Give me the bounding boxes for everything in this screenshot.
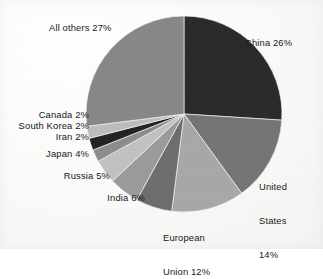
pie-label-japan: Japan 4% [46,148,89,159]
pie-label-russia: Russia 5% [64,170,110,181]
pie-label-iran: Iran 2% [56,131,89,142]
pie-label-united-states: United States 14% [259,158,287,279]
pie-label-south-korea: South Korea 2% [19,120,89,131]
pie-label-european-union-line2: Union 12% [163,266,210,277]
pie-label-all-others: All others 27% [49,22,112,33]
pie-label-united-states-line3: 14% [259,249,287,260]
pie-label-european-union: European Union 12% [163,209,210,279]
pie-slice-china [184,16,282,120]
pie-label-united-states-line1: United [259,181,287,192]
pie-label-india: India 6% [107,192,145,203]
pie-label-china: China 26% [245,37,292,48]
pie-label-united-states-line2: States [259,215,287,226]
pie-label-canada: Canada 2% [39,109,89,120]
pie-label-european-union-line1: European [163,232,210,243]
